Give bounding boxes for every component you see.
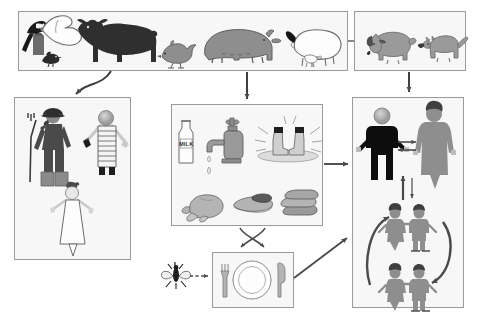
human-population-box-region[interactable] [352, 97, 464, 308]
farm-workers-box-region[interactable] [14, 97, 131, 260]
meal-table-box-region[interactable] [212, 252, 294, 308]
arrow-table-to-humans [294, 238, 347, 278]
arrow-livestock-to-workers [76, 71, 111, 94]
pets-box-region[interactable] [354, 11, 466, 71]
diagram-canvas: MILK [0, 0, 479, 317]
arrow-food-table-crossed [240, 228, 265, 247]
food-water-box-region[interactable] [171, 104, 323, 226]
livestock-box-region[interactable] [18, 11, 348, 71]
fly-region[interactable] [160, 258, 194, 294]
